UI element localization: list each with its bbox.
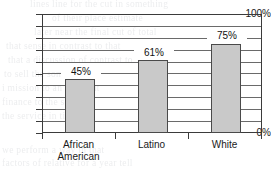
bar-chart: 100% 0% 45% 61% 75% African American Lat…	[0, 0, 271, 169]
gridline	[43, 26, 261, 27]
bar-latino[interactable]	[138, 60, 168, 133]
x-axis-label-latino: Latino	[115, 139, 188, 151]
x-axis-label-line: White	[188, 139, 261, 151]
x-axis-label-white: White	[188, 139, 261, 151]
bar-value-label-african-american: 45%	[61, 66, 101, 77]
x-axis-label-line: African	[42, 139, 115, 151]
bar-value-label-white: 75%	[207, 30, 247, 41]
x-axis-label-line: Latino	[115, 139, 188, 151]
x-axis-tick	[261, 133, 262, 139]
bar-value-label-latino: 61%	[134, 47, 174, 58]
bar-white[interactable]	[211, 44, 241, 133]
bar-african-american[interactable]	[65, 79, 95, 133]
x-axis-label-line: American	[42, 151, 115, 163]
x-axis-label-african-american: African American	[42, 139, 115, 163]
